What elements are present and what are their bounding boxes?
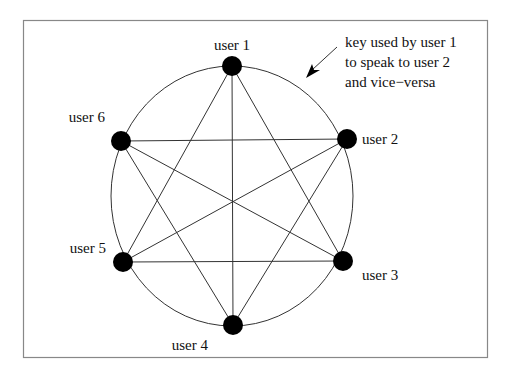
node-user-3 bbox=[333, 251, 353, 271]
label-user-1: user 1 bbox=[214, 37, 250, 53]
node-user-1 bbox=[222, 56, 242, 76]
label-user-4: user 4 bbox=[172, 337, 209, 353]
label-user-3: user 3 bbox=[362, 267, 398, 283]
node-user-4 bbox=[223, 315, 243, 335]
annotation-line-1: key used by user 1 bbox=[345, 34, 457, 50]
arrow-head-icon bbox=[306, 64, 320, 78]
label-user-6: user 6 bbox=[69, 109, 106, 125]
node-user-5 bbox=[113, 252, 133, 272]
node-user-2 bbox=[337, 129, 357, 149]
edge-user-3-user-5 bbox=[123, 261, 343, 262]
label-user-2: user 2 bbox=[362, 131, 398, 147]
label-user-5: user 5 bbox=[70, 240, 106, 256]
annotation-line-3: and vice−versa bbox=[345, 74, 436, 90]
edge-user-1-user-4 bbox=[232, 66, 233, 325]
key-distribution-diagram: user 1user 2user 3user 4user 5user 6 key… bbox=[0, 0, 510, 376]
annotation-line-2: to speak to user 2 bbox=[345, 54, 450, 70]
annotation: key used by user 1 to speak to user 2 an… bbox=[306, 34, 457, 90]
edge-user-2-user-6 bbox=[121, 139, 347, 141]
edge-user-4-user-6 bbox=[121, 141, 233, 325]
edges bbox=[121, 66, 347, 325]
node-user-6 bbox=[111, 131, 131, 151]
edge-user-2-user-5 bbox=[123, 139, 347, 262]
edge-user-1-user-3 bbox=[232, 66, 343, 261]
arrow-line bbox=[312, 47, 337, 70]
